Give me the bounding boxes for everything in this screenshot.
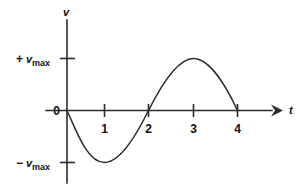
positive-sign: + [16, 52, 23, 66]
x-tick-label-3: 3 [190, 122, 197, 136]
velocity-time-graph: v t 0 + v max − v max 1 2 3 4 [0, 0, 304, 192]
x-tick-label-2: 2 [145, 122, 152, 136]
y-axis-label: v [63, 6, 70, 18]
x-axis-label: t [289, 104, 294, 116]
negative-sign: − [16, 156, 23, 170]
x-tick-label-1: 1 [101, 122, 108, 136]
y-label-negative-vmax: − v max [16, 156, 50, 172]
x-tick-label-4: 4 [234, 122, 241, 136]
positive-vmax-subscript: max [32, 58, 50, 68]
origin-label: 0 [53, 104, 60, 118]
y-label-positive-vmax: + v max [16, 52, 50, 68]
negative-vmax-subscript: max [32, 162, 50, 172]
